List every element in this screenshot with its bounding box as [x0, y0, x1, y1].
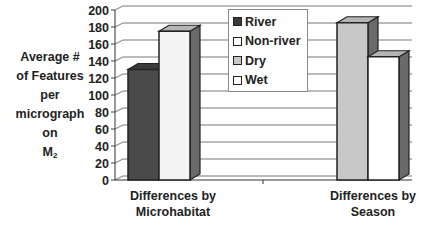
legend-item-river: River: [233, 12, 307, 32]
bar-non-river: [159, 31, 190, 180]
bar-side: [190, 25, 200, 180]
bar-side: [399, 51, 409, 180]
grid-diagonal: [115, 142, 123, 146]
legend-swatch: [233, 76, 242, 85]
grid-diagonal: [115, 6, 123, 10]
y-tick-label: 40: [95, 140, 109, 154]
y-tick-label: 80: [95, 106, 109, 120]
y-tick-label: 60: [95, 123, 109, 137]
legend-label: Wet: [245, 73, 268, 87]
grid-diagonal: [115, 159, 123, 163]
legend-label: River: [245, 15, 276, 29]
y-tick-label: 200: [88, 4, 109, 18]
legend-swatch: [233, 17, 242, 26]
grid-diagonal: [115, 57, 123, 61]
y-tick-label: 100: [88, 89, 109, 103]
legend-item-non-river: Non-river: [233, 32, 307, 52]
y-tick-label: 20: [95, 157, 109, 171]
legend-swatch: [233, 37, 242, 46]
grid-diagonal: [115, 176, 123, 180]
x-category-season: Differences by Season: [308, 188, 421, 220]
grid-diagonal: [115, 23, 123, 27]
legend-item-dry: Dry: [233, 51, 307, 71]
legend-swatch: [233, 56, 242, 65]
grid-diagonal: [115, 74, 123, 78]
x-category-microhabitat: Differences by Microhabitat: [108, 188, 238, 220]
grid-diagonal: [115, 40, 123, 44]
y-tick-label: 0: [102, 174, 109, 188]
y-tick-label: 120: [88, 72, 109, 86]
legend: RiverNon-riverDryWet: [228, 9, 308, 92]
bar-dry: [337, 23, 368, 180]
grid-diagonal: [115, 91, 123, 95]
y-tick-label: 160: [88, 38, 109, 52]
y-tick-label: 140: [88, 55, 109, 69]
bar-wet: [368, 57, 399, 180]
grid-diagonal: [115, 108, 123, 112]
grid-diagonal: [115, 125, 123, 129]
legend-label: Dry: [245, 54, 266, 68]
legend-label: Non-river: [245, 34, 301, 48]
legend-item-wet: Wet: [233, 71, 307, 91]
y-tick-label: 180: [88, 21, 109, 35]
bar-river: [128, 70, 159, 181]
